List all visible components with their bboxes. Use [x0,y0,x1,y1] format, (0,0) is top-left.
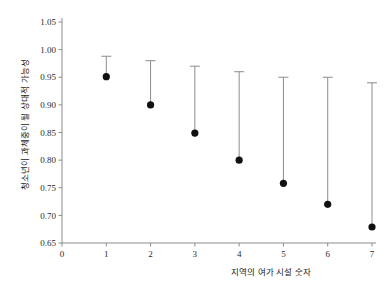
y-tick-label: 0.90 [40,100,56,110]
data-point [368,223,375,230]
x-tick-label: 3 [193,249,198,259]
scatter-plot-with-error-bars: 0.650.700.750.800.850.900.951.001.05 012… [0,0,388,294]
x-tick-label: 6 [325,249,330,259]
data-point [280,180,287,187]
y-tick-label: 0.80 [40,155,56,165]
y-tick-label: 1.05 [40,17,56,27]
x-tick-label: 5 [281,249,286,259]
x-axis-label: 지역의 여가 시설 숫자 [231,267,311,277]
data-point [324,201,331,208]
data-point [147,101,154,108]
y-tick-label: 1.00 [40,45,56,55]
x-tick-label: 1 [104,249,109,259]
y-tick-label: 0.95 [40,72,56,82]
y-tick-label: 0.70 [40,211,56,221]
y-axis-label: 청소년이 과체중이 될 상대적 가능성 [20,59,30,190]
y-tick-label: 0.75 [40,183,56,193]
y-tick-label: 0.85 [40,128,56,138]
x-tick-label: 7 [370,249,375,259]
data-point [236,157,243,164]
data-point [191,129,198,136]
x-tick-label: 0 [60,249,65,259]
x-tick-label: 2 [148,249,153,259]
y-tick-label: 0.65 [40,238,56,248]
x-tick-label: 4 [237,249,242,259]
data-point [103,73,110,80]
chart-container: 0.650.700.750.800.850.900.951.001.05 012… [0,0,388,294]
